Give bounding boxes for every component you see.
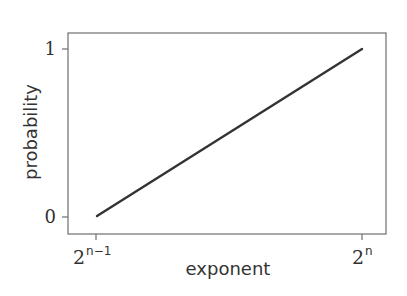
x-tick-label-2n-sup: n — [365, 244, 373, 258]
x-tick-label-2n-1-sup: n−1 — [86, 244, 111, 258]
chart: 1 0 2n−1 2n exponent probability — [0, 0, 407, 296]
y-axis-label: probability — [20, 84, 41, 180]
x-axis-label: exponent — [186, 258, 271, 279]
probability-line — [97, 49, 362, 216]
y-tick-label-0: 0 — [45, 206, 56, 227]
y-tick-label-1: 1 — [45, 38, 56, 59]
x-tick-label-2n-base: 2 — [352, 246, 364, 268]
x-tick-label-2n-1: 2n−1 — [73, 244, 111, 268]
x-tick-label-2n: 2n — [352, 244, 373, 268]
x-tick-label-2n-1-base: 2 — [73, 246, 85, 268]
